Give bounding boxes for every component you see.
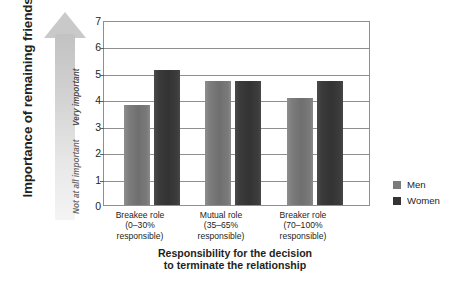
y-axis-title: Importance of remaining friends (20, 0, 35, 204)
bars-layer (104, 22, 369, 205)
bar-women-breaker (317, 81, 343, 205)
plot-area-container: 7 6 5 4 3 2 1 0 (88, 12, 378, 212)
plot-area (103, 21, 370, 206)
category-label-breaker: Breaker role (70–100% responsible) (255, 210, 351, 241)
bar-men-breakee (124, 105, 150, 205)
y-tick-6: 6 (95, 42, 101, 52)
importance-scale-arrow: Very important Not at all important (44, 8, 88, 220)
x-axis-category-labels: Breakee role (0–30% responsible) Mutual … (88, 210, 378, 250)
category-breaker-line2: (70–100% (255, 220, 351, 230)
legend-label-women: Women (407, 196, 440, 205)
y-axis-title-container: Importance of remaining friends (2, 4, 48, 219)
chart-figure: Importance of remaining friends Very imp… (0, 0, 462, 282)
category-breaker-line1: Breaker role (255, 210, 351, 220)
legend-item-women: Women (393, 196, 440, 205)
legend-swatch-women (393, 197, 401, 205)
bar-women-breakee (154, 70, 180, 205)
legend: Men Women (393, 180, 440, 212)
legend-item-men: Men (393, 180, 440, 189)
bar-men-mutual (205, 81, 231, 205)
y-tick-5: 5 (95, 69, 101, 79)
scale-label-high: Very important (72, 69, 81, 126)
y-tick-2: 2 (95, 148, 101, 158)
legend-label-men: Men (407, 180, 426, 189)
x-axis-title-line2: to terminate the relationship (120, 259, 350, 271)
y-tick-4: 4 (95, 95, 101, 105)
y-tick-7: 7 (95, 16, 101, 26)
y-axis-tick-labels: 7 6 5 4 3 2 1 0 (88, 12, 101, 212)
y-tick-3: 3 (95, 122, 101, 132)
x-axis-title-line1: Responsibility for the decision (120, 247, 350, 259)
y-tick-1: 1 (95, 175, 101, 185)
bar-men-breaker (287, 98, 313, 205)
x-axis-title: Responsibility for the decision to termi… (120, 247, 350, 272)
category-breaker-line3: responsible) (255, 231, 351, 241)
bar-women-mutual (235, 81, 261, 205)
scale-label-low: Not at all important (72, 139, 81, 214)
legend-swatch-men (393, 181, 401, 189)
